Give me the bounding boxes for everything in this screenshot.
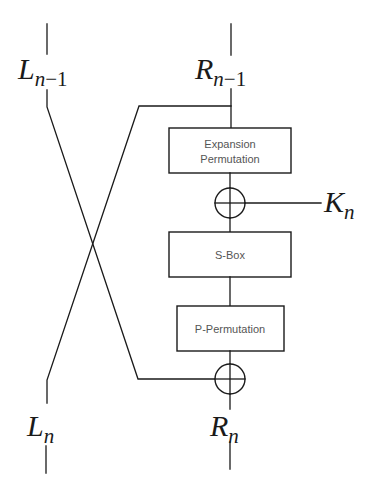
left-output-label: Ln — [26, 409, 54, 448]
left-input-label: Ln−1 — [17, 52, 68, 91]
p-permutation-box: P-Permutation — [177, 306, 284, 351]
expansion-label-line2: Permutation — [200, 153, 259, 165]
expansion-permutation-box: Expansion Permutation — [169, 128, 291, 173]
key-label: Kn — [323, 185, 355, 224]
pperm-label: P-Permutation — [195, 323, 265, 335]
s-box: S-Box — [169, 232, 291, 277]
xor-left-icon — [215, 364, 245, 394]
expansion-label-line1: Expansion — [204, 138, 255, 150]
right-input-label: Rn−1 — [194, 52, 246, 91]
feistel-round-diagram: Ln−1 Rn−1 Expansion Permutation Kn S-Box — [0, 0, 383, 488]
sbox-label: S-Box — [215, 249, 245, 261]
right-output-label: Rn — [209, 409, 239, 448]
xor-key-icon — [215, 188, 245, 218]
